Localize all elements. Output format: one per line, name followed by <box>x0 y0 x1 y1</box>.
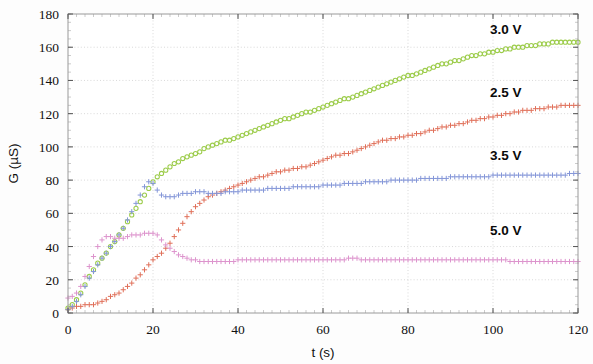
series-label-3-0-v: 3.0 V <box>490 22 522 37</box>
y-axis-tick-label: 180 <box>39 7 60 22</box>
y-axis-tick-label: 160 <box>39 40 60 55</box>
y-axis-tick-label: 100 <box>39 140 60 155</box>
x-axis-tick-label: 100 <box>483 322 504 337</box>
x-axis-title: t (s) <box>311 345 334 360</box>
y-axis-tick-label: 80 <box>46 173 60 188</box>
y-axis-tick-label: 60 <box>46 206 60 221</box>
y-axis-tick-label: 0 <box>52 306 59 321</box>
y-axis-tick-label: 140 <box>39 73 60 88</box>
series-label-5-0-v: 5.0 V <box>490 223 522 238</box>
x-axis-tick-label: 20 <box>146 322 160 337</box>
y-axis-tick-label: 20 <box>46 273 60 288</box>
x-axis-tick-label: 40 <box>231 322 245 337</box>
x-axis-tick-label: 80 <box>401 322 415 337</box>
x-axis-tick-label: 0 <box>65 322 72 337</box>
series-label-2-5-v: 2.5 V <box>490 85 522 100</box>
chart-figure: 020406080100120020406080100120140160180t… <box>0 0 593 364</box>
chart-plot-area: 020406080100120020406080100120140160180t… <box>0 0 593 364</box>
y-axis-tick-label: 40 <box>46 240 60 255</box>
y-axis-title: G (µS) <box>6 143 21 183</box>
x-axis-tick-label: 60 <box>316 322 330 337</box>
series-label-3-5-v: 3.5 V <box>490 148 522 163</box>
y-axis-tick-label: 120 <box>39 107 60 122</box>
x-axis-tick-label: 120 <box>568 322 589 337</box>
